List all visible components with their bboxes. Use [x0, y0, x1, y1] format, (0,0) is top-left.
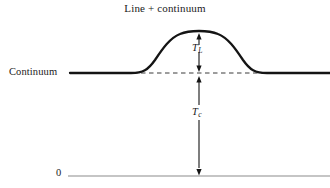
- line-temperature-subscript: L: [198, 46, 202, 55]
- continuum-temperature-symbol: T: [192, 106, 198, 117]
- arrowhead-up-tl: [196, 33, 201, 39]
- arrowhead-down-tl: [196, 66, 201, 72]
- figure-container: Line + continuum Continuum 0 TL Tc: [0, 0, 330, 188]
- continuum-brightness-arrow: [196, 76, 201, 176]
- arrowhead-up-tc: [196, 76, 201, 82]
- arrowhead-down-tc: [196, 169, 201, 175]
- continuum-temperature-label: Tc: [192, 107, 201, 118]
- figure-title: Line + continuum: [0, 3, 330, 14]
- line-temperature-label: TL: [192, 43, 202, 54]
- continuum-level-label: Continuum: [9, 67, 57, 78]
- zero-level-label: 0: [56, 168, 61, 179]
- figure-canvas: [0, 0, 330, 188]
- continuum-temperature-subscript: c: [198, 110, 201, 119]
- line-temperature-symbol: T: [192, 42, 198, 53]
